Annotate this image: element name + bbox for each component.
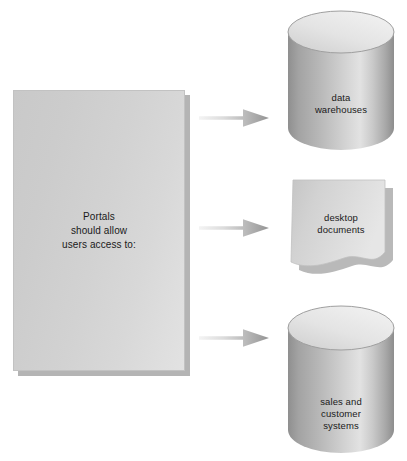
cylinder-icon [286,10,396,156]
arrow-to-desktop-documents [199,215,269,241]
sales-customer-systems-shape[interactable]: sales and customer systems [286,304,396,458]
panel-text-line-2: should allow [71,224,127,237]
data-warehouses-shape[interactable]: data warehouses [286,10,396,156]
panel-text-line-3: users access to: [62,238,136,251]
panel-text-block: Portals should allow users access to: [13,90,185,371]
diagram-canvas: Portals should allow users access to: [0,0,407,461]
arrow-to-data-warehouses [199,105,269,131]
arrow-to-sales-systems [199,325,269,351]
document-icon [286,176,396,274]
panel-text-line-1: Portals [83,210,115,223]
cylinder-icon [286,304,396,458]
portals-panel[interactable]: Portals should allow users access to: [13,90,185,371]
desktop-documents-shape[interactable]: desktop documents [286,176,396,274]
